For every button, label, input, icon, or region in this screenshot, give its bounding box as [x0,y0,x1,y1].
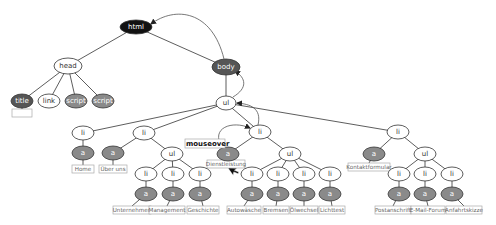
node-label: li [328,170,332,178]
node-label: ul [287,150,293,158]
node-a_d1: a [241,187,263,201]
node-label: a [397,190,401,198]
node-label: li [396,128,400,136]
text-node-label: Dienstleistung [206,161,247,168]
node-label: li [144,170,148,178]
node-li_d4: li [319,167,341,181]
node-a_k3: a [441,187,463,201]
node-body: body [212,59,240,75]
node-ul2: ul [161,147,183,161]
node-label: a [144,190,148,198]
element-nodes: htmlheadbodytitlelinkscriptscriptullilil… [11,20,463,201]
node-label: a [171,190,175,198]
text-node-label: Anfahrtskizze [445,207,483,213]
node-label: ul [422,150,428,158]
diagram-canvas: HomeÜber unsDienstleistungKontaktformula… [0,0,496,225]
node-label: link [43,97,56,105]
edge-html-body [136,27,226,67]
text-node-label: Geschichte [187,207,219,213]
node-label: li [397,170,401,178]
node-label: a [81,149,85,157]
node-a_u2: a [162,187,184,201]
node-ul_main: ul [216,96,236,110]
node-label: a [226,150,230,158]
node-label: li [423,170,427,178]
node-label: ul [223,99,229,107]
text-node-label: Autowäsche [227,207,262,213]
node-label: li [302,170,306,178]
text-node-label: Lichttest [320,207,345,213]
node-a_d4: a [319,187,341,201]
node-li_d2: li [267,167,289,181]
node-label: a [198,190,202,198]
text-node-label: E-Mail-Forum [410,207,447,213]
node-label: li [276,170,280,178]
node-a_home: a [72,146,94,160]
node-li2: li [133,126,155,140]
text-node-label: Bremsen [264,207,289,213]
dom-tree-diagram: HomeÜber unsDienstleistungKontaktformula… [0,0,496,225]
node-a_d3: a [293,187,315,201]
node-label: li [81,129,85,137]
node-a_u1: a [135,187,157,201]
text-node-box [12,109,32,117]
node-label: a [111,149,115,157]
node-label: li [258,128,262,136]
node-a_d2: a [267,187,289,201]
node-label: a [423,190,427,198]
node-label: a [302,190,306,198]
node-li_u1: li [135,167,157,181]
node-li_k3: li [441,167,463,181]
node-ul3: ul [279,147,301,161]
node-li_d3: li [293,167,315,181]
node-label: script [93,97,113,105]
node-label: li [142,129,146,137]
text-node-label: Über uns [100,165,125,172]
node-label: a [328,190,332,198]
node-li_k2: li [414,167,436,181]
node-label: a [372,150,376,158]
node-label: li [450,170,454,178]
node-title: title [11,94,33,108]
node-label: li [250,170,254,178]
text-node-label: Kontaktformular [346,164,392,170]
event-bubbling-arrows [151,14,259,147]
node-label: li [171,170,175,178]
node-label: html [128,23,144,31]
text-node-label: Home [75,166,92,172]
node-a_ueber: a [102,146,124,160]
node-li3: li [249,125,271,139]
node-ul4: ul [414,147,436,161]
text-node-label: Ölwechsel [290,206,319,213]
node-script1: script [65,94,87,108]
event-annotation: mouseover [185,139,230,148]
node-a_k1: a [388,187,410,201]
node-label: title [15,97,29,105]
node-a_u3: a [189,187,211,201]
mouseover-label: mouseover [186,140,230,148]
node-html: html [120,20,152,34]
node-li4: li [387,125,409,139]
node-li_k1: li [388,167,410,181]
node-li_u3: li [189,167,211,181]
node-a_k2: a [414,187,436,201]
node-head: head [54,58,82,74]
text-node-label: Management [149,207,187,214]
node-a_dienst: a [217,147,239,161]
node-li1: li [72,126,94,140]
node-script2: script [92,94,114,108]
node-link: link [38,94,60,108]
text-node-label: Unternehmen [113,207,152,213]
node-label: a [276,190,280,198]
bubble-arrow-ul_main-to-body [233,71,244,97]
node-li_u2: li [162,167,184,181]
node-a_kontakt: a [363,147,385,161]
node-label: ul [169,150,175,158]
node-label: script [66,97,86,105]
bubble-arrow-body-to-html [151,14,224,59]
node-li_d1: li [241,167,263,181]
node-label: body [217,63,234,71]
node-label: head [59,62,76,70]
node-label: li [198,170,202,178]
node-label: a [250,190,254,198]
